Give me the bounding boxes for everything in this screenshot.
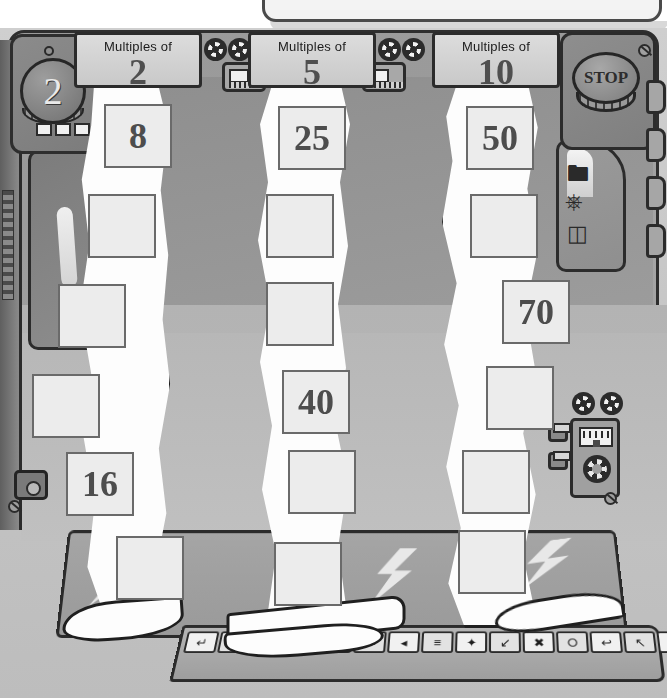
answer-cell[interactable]	[486, 366, 554, 430]
keyboard-key[interactable]: ↙	[489, 631, 521, 653]
answer-cell[interactable]	[266, 194, 334, 258]
column-header-number: 10	[435, 55, 557, 89]
column-header-1: Multiples of 2	[74, 32, 202, 88]
mini-button-3[interactable]	[74, 123, 90, 136]
cog-icon	[378, 38, 401, 61]
answer-cell[interactable]	[88, 194, 156, 258]
machine-control-panel	[570, 418, 620, 498]
keyboard-key[interactable]: ↩	[589, 631, 623, 653]
answer-cell[interactable]: 40	[282, 370, 350, 434]
machine-display	[579, 427, 613, 447]
machine-button[interactable]	[548, 452, 568, 470]
keyboard-key[interactable]: ↖	[623, 631, 657, 653]
machine-right-module: 🖿 ⎈ ◫	[556, 140, 626, 272]
answer-cell[interactable]	[288, 450, 356, 514]
keyboard-key[interactable]: ≡	[421, 631, 454, 653]
lamp-icon: ◫	[567, 221, 588, 247]
answer-cell[interactable]: 50	[466, 106, 534, 170]
keyboard-key[interactable]: ⭘	[556, 631, 589, 653]
side-tab	[646, 80, 666, 114]
keyboard-key[interactable]: ✦	[455, 631, 487, 653]
answer-cell[interactable]	[470, 194, 538, 258]
keyboard-key[interactable]: ↵	[183, 631, 220, 653]
mini-button-2[interactable]	[55, 123, 71, 136]
answer-cell[interactable]: 70	[502, 280, 570, 344]
stop-button[interactable]: STOP	[572, 52, 640, 104]
mini-button-row[interactable]	[36, 120, 98, 138]
answer-cell[interactable]	[462, 450, 530, 514]
screw-icon	[8, 500, 21, 513]
keyboard-key[interactable]: ↖	[656, 631, 667, 653]
side-tab	[646, 224, 666, 258]
answer-cell[interactable]	[58, 284, 126, 348]
cog-icon	[204, 38, 227, 61]
machine-side-tabs	[646, 80, 666, 300]
column-header-number: 5	[251, 55, 373, 89]
answer-cell[interactable]	[458, 530, 526, 594]
dial-icon[interactable]	[583, 455, 611, 483]
cog-icon	[572, 392, 595, 415]
mini-button-1[interactable]	[36, 123, 52, 136]
column-header-2: Multiples of 5	[248, 32, 376, 88]
power-switch[interactable]	[14, 470, 48, 500]
column-header-number: 2	[77, 55, 199, 89]
keyboard-key[interactable]: ◂	[387, 631, 420, 653]
answer-cell[interactable]	[274, 542, 342, 606]
cog-icon	[402, 38, 425, 61]
stamp-icon: ⎈	[565, 189, 583, 215]
side-tab	[646, 176, 666, 210]
answer-cell[interactable]: 8	[104, 104, 172, 168]
answer-cell[interactable]	[116, 536, 184, 600]
vent-slots	[2, 190, 14, 300]
keyboard-key[interactable]: ✖	[523, 631, 555, 653]
side-tab	[646, 128, 666, 162]
answer-cell[interactable]: 16	[66, 452, 134, 516]
worksheet-canvas: 2 🖿 ⎈ ◫ STOP	[0, 0, 667, 698]
cog-icon	[600, 392, 623, 415]
answer-cell[interactable]	[266, 282, 334, 346]
screw-icon	[638, 44, 651, 57]
screw-icon	[604, 492, 617, 505]
top-cutoff-panel	[262, 0, 662, 22]
answer-cell[interactable]	[32, 374, 100, 438]
answer-cell[interactable]: 25	[278, 106, 346, 170]
screw-icon	[44, 46, 54, 56]
column-header-3: Multiples of 10	[432, 32, 560, 88]
